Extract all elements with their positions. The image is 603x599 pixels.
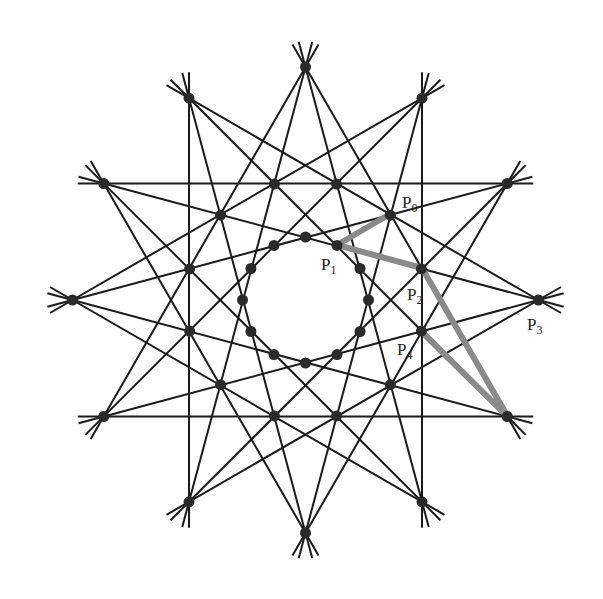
- vertex-dot: [215, 379, 226, 390]
- vertex-dot: [416, 326, 427, 337]
- vertex-dot: [332, 349, 343, 360]
- vertex-dot: [98, 178, 109, 189]
- label-p4: P4: [397, 340, 412, 362]
- diagram-canvas: P0P1P2P3P4: [0, 0, 603, 599]
- chord-line: [50, 85, 445, 313]
- vertex-dot: [332, 240, 343, 251]
- vertex-dot: [363, 295, 374, 306]
- label-p2: P2: [407, 285, 422, 307]
- vertex-dot: [300, 358, 311, 369]
- vertex-dot: [385, 379, 396, 390]
- vertex-dot: [417, 496, 428, 507]
- vertex-dot: [533, 295, 544, 306]
- vertex-dot: [300, 528, 311, 539]
- vertex-dot: [269, 240, 280, 251]
- vertex-dot: [237, 295, 248, 306]
- vertex-dot: [331, 410, 342, 421]
- vertex-dot: [98, 411, 109, 422]
- center-hole: [273, 267, 339, 333]
- vertex-dot: [416, 263, 427, 274]
- chord-line: [91, 44, 319, 439]
- vertex-dot: [417, 93, 428, 104]
- vertex-dot: [184, 496, 195, 507]
- vertex-dot: [245, 326, 256, 337]
- vertex-dot: [184, 93, 195, 104]
- star-diagram: P0P1P2P3P4: [0, 0, 603, 599]
- vertex-dot: [269, 410, 280, 421]
- vertex-dot: [300, 232, 311, 243]
- vertex-dot: [215, 210, 226, 221]
- label-p0: P0: [402, 193, 417, 215]
- vertex-dot: [269, 349, 280, 360]
- vertex-dot: [300, 62, 311, 73]
- vertex-dot: [245, 263, 256, 274]
- label-p1: P1: [321, 255, 336, 277]
- vertex-dot: [184, 263, 195, 274]
- vertex-dot: [269, 179, 280, 190]
- vertex-dot: [355, 326, 366, 337]
- vertex-dot: [355, 263, 366, 274]
- vertex-dot: [331, 179, 342, 190]
- chord-line: [91, 161, 319, 556]
- vertex-dot: [184, 326, 195, 337]
- vertex-dot: [385, 210, 396, 221]
- label-p3: P3: [527, 315, 542, 337]
- chord-line: [50, 287, 445, 515]
- vertex-dot: [502, 411, 513, 422]
- chord-line: [166, 85, 561, 313]
- vertex-dot: [67, 295, 78, 306]
- vertex-dot: [502, 178, 513, 189]
